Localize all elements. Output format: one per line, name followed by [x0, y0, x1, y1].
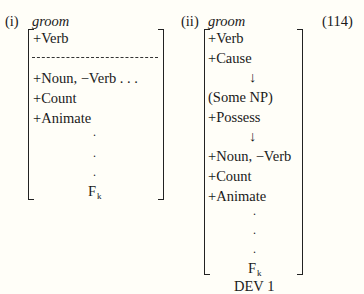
- final-feature-subscript: k: [97, 191, 102, 201]
- panel-ii-ellipsis-dot: .: [253, 205, 256, 217]
- panel-ii-feature-possess: +Possess: [208, 110, 261, 125]
- down-arrow-icon: ↓: [249, 70, 256, 85]
- panel-ii-ellipsis-dot: .: [253, 224, 256, 236]
- panel-ii-feature-noun: +Noun, −Verb: [208, 149, 291, 164]
- panel-i-ellipsis-dot: .: [93, 147, 96, 159]
- panel-ii-ellipsis-dot: .: [253, 243, 256, 255]
- panel-i-ellipsis-dot: .: [93, 126, 96, 138]
- panel-ii-label: (ii): [181, 14, 199, 29]
- panel-ii-feature-verb: +Verb: [208, 31, 244, 46]
- down-arrow-icon: ↓: [249, 129, 256, 144]
- final-feature-subscript: k: [257, 268, 262, 278]
- panel-i-word: groom: [32, 14, 69, 29]
- panel-ii-feature-cause: +Cause: [208, 51, 252, 66]
- panel-i-feature-count: +Count: [33, 91, 77, 106]
- final-feature-letter: F: [88, 183, 96, 199]
- panel-ii-caption: DEV 1: [234, 279, 274, 294]
- panel-i-feature-verb: +Verb: [33, 31, 69, 46]
- panel-ii-feature-animate: +Animate: [208, 189, 266, 204]
- panel-i-dashed-separator: [32, 57, 158, 58]
- panel-i-feature-animate: +Animate: [33, 111, 91, 126]
- panel-i-final-feature: Fk: [88, 184, 102, 199]
- panel-ii-feature-count: +Count: [208, 169, 252, 184]
- panel-ii-feature-some-np: (Some NP): [208, 90, 273, 105]
- equation-number: (114): [322, 14, 353, 29]
- panel-i-label: (i): [5, 14, 19, 29]
- final-feature-letter: F: [248, 260, 256, 276]
- panel-i-feature-noun: +Noun, −Verb . . .: [33, 71, 138, 86]
- panel-i-ellipsis-dot: .: [93, 166, 96, 178]
- panel-ii-word: groom: [208, 14, 245, 29]
- panel-ii-final-feature: Fk: [248, 261, 262, 276]
